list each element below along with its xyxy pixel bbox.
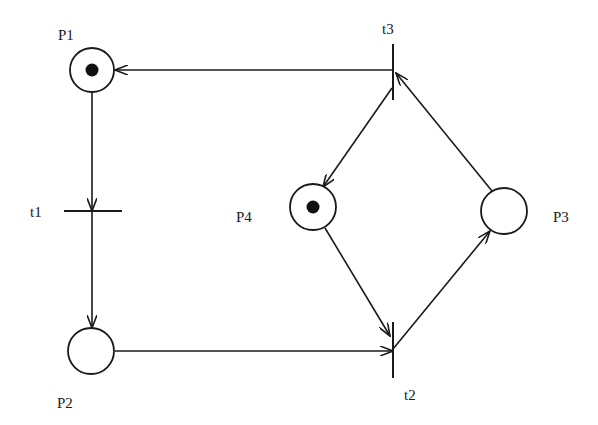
token-icon xyxy=(86,64,99,77)
place-circle-P2 xyxy=(68,328,114,374)
petri-net-diagram: t1t2t3P1P2P3P4 xyxy=(0,0,598,425)
transition-label-t2: t2 xyxy=(404,387,416,403)
place-P4 xyxy=(290,184,336,230)
place-P1 xyxy=(70,48,114,92)
token-icon xyxy=(307,201,320,214)
place-circle-P3 xyxy=(481,188,527,234)
transition-label-t1: t1 xyxy=(30,204,42,220)
transitions-layer xyxy=(64,44,393,378)
diagram-canvas: t1t2t3P1P2P3P4 xyxy=(0,0,598,425)
place-label-P4: P4 xyxy=(236,209,252,225)
place-label-P3: P3 xyxy=(553,209,569,225)
arc-t3-to-p4 xyxy=(323,88,392,187)
arc-p4-to-t2 xyxy=(325,228,390,336)
place-P2 xyxy=(68,328,114,374)
places-layer xyxy=(68,48,527,374)
place-P3 xyxy=(481,188,527,234)
arc-p3-to-t3 xyxy=(396,73,492,191)
place-label-P2: P2 xyxy=(57,395,73,411)
transition-label-t3: t3 xyxy=(382,21,394,37)
place-label-P1: P1 xyxy=(58,27,74,43)
arc-t2-to-p3 xyxy=(393,231,490,349)
